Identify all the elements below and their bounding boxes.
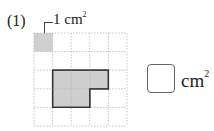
unit-cell bbox=[34, 33, 53, 52]
grid-figure bbox=[0, 0, 214, 131]
answer-unit: cm2 bbox=[181, 70, 209, 92]
answer-input-box[interactable] bbox=[147, 64, 175, 93]
unit-text: cm bbox=[181, 70, 204, 91]
unit-exponent: 2 bbox=[204, 68, 209, 79]
